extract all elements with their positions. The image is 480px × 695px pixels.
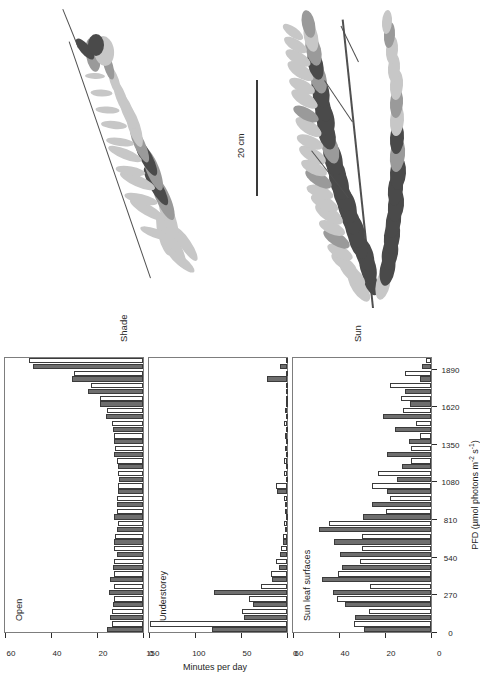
- histogram-bar: [390, 496, 431, 501]
- histogram-figure: Open0204060Understorey050100150Sun leaf …: [0, 348, 433, 695]
- y-axis-tick: [431, 633, 432, 638]
- y-axis-tick: [195, 633, 196, 638]
- histogram-bar: [280, 552, 287, 557]
- scale-bar-line: [256, 80, 258, 196]
- histogram-bar: [362, 534, 431, 539]
- histogram-bar: [244, 615, 287, 620]
- y-axis-title: Minutes per day: [165, 662, 265, 672]
- histogram-bar: [212, 627, 287, 632]
- chart-panel: Understorey050100150: [148, 357, 288, 633]
- histogram-bar: [340, 552, 431, 557]
- x-axis-tick-label: 810: [437, 516, 465, 525]
- y-axis-tick-label: 20: [372, 649, 396, 658]
- histogram-bar: [337, 596, 431, 601]
- histogram-bar: [118, 489, 143, 494]
- histogram-bar: [118, 483, 143, 488]
- histogram-bar: [29, 358, 143, 363]
- histogram-bar: [271, 571, 287, 576]
- histogram-bar: [370, 584, 431, 589]
- histogram-bar: [280, 364, 287, 369]
- histogram-bar: [277, 489, 287, 494]
- histogram-bar: [285, 509, 287, 514]
- histogram-bar: [117, 527, 143, 532]
- leaf-shape: [85, 73, 105, 80]
- y-axis-tick: [51, 633, 52, 638]
- histogram-bar: [286, 383, 288, 388]
- x-axis-tick-label: 270: [437, 591, 465, 600]
- histogram-bar: [114, 546, 143, 551]
- histogram-bar: [115, 446, 143, 451]
- histogram-bar: [329, 521, 431, 526]
- y-axis-tick-label: 0: [418, 649, 442, 658]
- histogram-bar: [387, 489, 431, 494]
- histogram-bar: [114, 514, 143, 519]
- histogram-bar: [119, 477, 143, 482]
- histogram-bar: [112, 609, 143, 614]
- y-axis-tick-label: 150: [136, 649, 160, 658]
- x-axis-tick-label: 1890: [437, 365, 465, 374]
- leaf-shape: [90, 89, 112, 97]
- histogram-bar: [354, 621, 431, 626]
- histogram-bar: [214, 590, 287, 595]
- histogram-bar: [410, 401, 431, 406]
- histogram-bar: [286, 396, 288, 401]
- histogram-bar: [109, 590, 144, 595]
- histogram-bar: [286, 389, 288, 394]
- y-axis-tick: [143, 633, 144, 638]
- histogram-bar: [286, 414, 288, 419]
- histogram-bar: [112, 621, 143, 626]
- histogram-bar: [88, 389, 143, 394]
- histogram-bar: [345, 602, 431, 607]
- histogram-bar: [249, 596, 287, 601]
- histogram-bar: [342, 565, 431, 570]
- y-axis-tick-label: 20: [84, 649, 108, 658]
- histogram-bar: [322, 577, 431, 582]
- histogram-bar: [113, 602, 143, 607]
- histogram-bar: [114, 452, 143, 457]
- histogram-bar: [401, 396, 431, 401]
- histogram-bar: [387, 452, 431, 457]
- histogram-bar: [114, 596, 143, 601]
- histogram-bar: [286, 358, 288, 363]
- histogram-bar: [117, 502, 143, 507]
- y-axis-tick: [385, 633, 386, 638]
- histogram-bar: [114, 571, 143, 576]
- histogram-bar: [286, 427, 288, 432]
- leaf-shape: [88, 34, 104, 56]
- histogram-bar: [74, 371, 143, 376]
- histogram-bar: [114, 433, 143, 438]
- histogram-bar: [117, 458, 143, 463]
- histogram-bar: [360, 559, 431, 564]
- histogram-bar: [402, 464, 431, 469]
- y-axis-tick-label: 100: [182, 649, 206, 658]
- histogram-bar: [267, 376, 287, 381]
- histogram-bar: [284, 471, 287, 476]
- scale-bar-label: 20 cm: [236, 133, 246, 158]
- histogram-bar: [372, 483, 431, 488]
- histogram-bar: [107, 627, 143, 632]
- histogram-bar: [110, 577, 143, 582]
- histogram-bar: [276, 559, 287, 564]
- histogram-bar: [383, 414, 431, 419]
- y-axis-tick: [293, 633, 294, 638]
- histogram-bar: [420, 433, 432, 438]
- histogram-bar: [286, 514, 288, 519]
- histogram-bar: [272, 577, 287, 582]
- histogram-bar: [284, 458, 287, 463]
- histogram-bar: [285, 446, 287, 451]
- histogram-bar: [286, 477, 288, 482]
- histogram-bar: [284, 521, 287, 526]
- histogram-bar: [334, 539, 431, 544]
- histogram-bar: [285, 433, 287, 438]
- histogram-bar: [283, 534, 287, 539]
- histogram-bar: [285, 527, 287, 532]
- histogram-bar: [286, 464, 288, 469]
- sun-canopy-label: Sun: [352, 325, 363, 342]
- histogram-bar: [362, 546, 431, 551]
- histogram-bar: [416, 421, 431, 426]
- panel-title: Understorey: [158, 571, 168, 621]
- histogram-bar: [113, 565, 143, 570]
- y-axis-tick: [5, 633, 6, 638]
- histogram-bar: [386, 509, 431, 514]
